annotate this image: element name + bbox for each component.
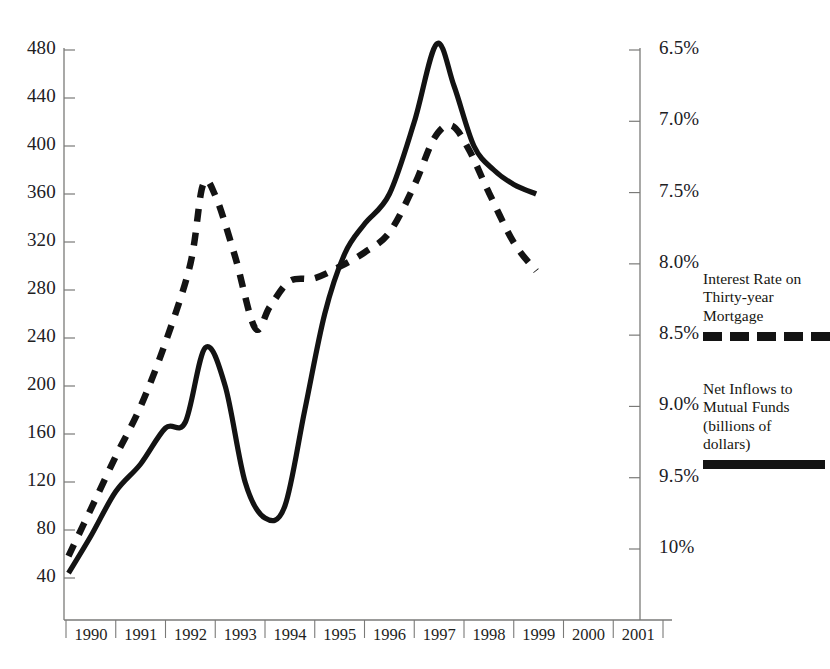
x-axis-tick-label: 1998 bbox=[464, 625, 514, 645]
x-axis-tick-label: 1995 bbox=[315, 625, 365, 645]
y-axis-left-tick-label: 440 bbox=[0, 85, 56, 107]
y-axis-right-tick-label: 7.0% bbox=[659, 108, 699, 130]
y-axis-left-tick-label: 40 bbox=[0, 565, 56, 587]
y-axis-right-tick-label: 7.5% bbox=[659, 180, 699, 202]
y-axis-left-tick-label: 320 bbox=[0, 229, 56, 251]
legend-swatch-solid bbox=[703, 460, 825, 471]
x-axis-tick-label: 1990 bbox=[66, 625, 116, 645]
x-axis-tick-label: 1994 bbox=[265, 625, 315, 645]
x-axis-tick-label: 2001 bbox=[613, 625, 663, 645]
legend-label-net-inflows: Net Inflows to Mutual Funds (billions of… bbox=[703, 380, 825, 453]
series-line-net-inflows bbox=[68, 43, 536, 573]
series-line-interest-rate bbox=[68, 125, 536, 556]
y-axis-right-tick-label: 8.5% bbox=[659, 322, 699, 344]
y-axis-right-tick-label: 10% bbox=[659, 536, 694, 558]
y-axis-left-tick-label: 280 bbox=[0, 277, 56, 299]
tick-marks bbox=[64, 50, 663, 638]
x-axis-tick-label: 1997 bbox=[414, 625, 464, 645]
series-paths bbox=[68, 43, 536, 573]
y-axis-left-tick-label: 160 bbox=[0, 421, 56, 443]
x-axis-tick-label: 1996 bbox=[365, 625, 415, 645]
y-axis-left-tick-label: 400 bbox=[0, 133, 56, 155]
y-axis-left-tick-label: 480 bbox=[0, 37, 56, 59]
y-axis-right-tick-label: 8.0% bbox=[659, 251, 699, 273]
axis-lines bbox=[64, 48, 672, 620]
legend-item-interest-rate: Interest Rate on Thirty-year Mortgage bbox=[703, 270, 825, 343]
legend-swatch-dashed bbox=[703, 332, 825, 343]
y-axis-right-tick-label: 6.5% bbox=[659, 37, 699, 59]
y-axis-right-tick-label: 9.0% bbox=[659, 393, 699, 415]
legend-item-net-inflows: Net Inflows to Mutual Funds (billions of… bbox=[703, 380, 825, 471]
y-axis-left-tick-label: 360 bbox=[0, 181, 56, 203]
x-axis-tick-label: 1999 bbox=[514, 625, 564, 645]
y-axis-left-tick-label: 240 bbox=[0, 325, 56, 347]
y-axis-left-tick-label: 200 bbox=[0, 373, 56, 395]
y-axis-left-tick-label: 120 bbox=[0, 469, 56, 491]
y-axis-left-tick-label: 80 bbox=[0, 517, 56, 539]
x-axis-tick-label: 2000 bbox=[564, 625, 614, 645]
y-axis-right-tick-label: 9.5% bbox=[659, 465, 699, 487]
legend-label-interest-rate: Interest Rate on Thirty-year Mortgage bbox=[703, 270, 825, 325]
x-axis-tick-label: 1993 bbox=[215, 625, 265, 645]
x-axis-tick-label: 1991 bbox=[116, 625, 166, 645]
x-axis-tick-label: 1992 bbox=[166, 625, 216, 645]
